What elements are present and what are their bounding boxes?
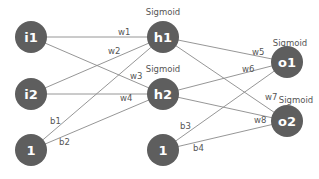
node-h1: h1 (147, 21, 179, 53)
node-o1: o1 (271, 46, 303, 78)
node-bias-input: 1 (15, 134, 47, 166)
neural-network-diagram: w1 w2 w3 w4 b1 b2 w5 w6 w7 w8 b3 b4 Sigm… (0, 0, 319, 179)
node-label-bias-input: 1 (26, 143, 35, 158)
label-b2: b2 (59, 137, 70, 147)
label-w3: w3 (130, 71, 142, 81)
edge-w6 (163, 62, 287, 94)
label-w8: w8 (254, 115, 266, 125)
edge-b3 (163, 62, 287, 150)
node-label-o2: o2 (278, 114, 296, 129)
node-i2: i2 (15, 78, 47, 110)
label-w1: w1 (118, 27, 130, 37)
node-h2: h2 (147, 78, 179, 110)
label-w5: w5 (252, 47, 264, 57)
node-label-h2: h2 (154, 87, 172, 102)
activation-label-o2: Sigmoid (279, 95, 313, 105)
node-label-bias-hidden: 1 (158, 143, 167, 158)
node-i1: i1 (15, 21, 47, 53)
node-label-h1: h1 (154, 30, 172, 45)
label-w2: w2 (108, 46, 120, 56)
node-label-i1: i1 (24, 30, 38, 45)
label-w4: w4 (120, 93, 132, 103)
activation-label-h2: Sigmoid (146, 64, 180, 74)
label-b4: b4 (193, 143, 204, 153)
edge-b1 (31, 37, 163, 150)
activation-label-h1: Sigmoid (146, 7, 180, 17)
node-label-o1: o1 (278, 55, 296, 70)
node-label-i2: i2 (24, 87, 38, 102)
label-b3: b3 (180, 121, 191, 131)
node-bias-hidden: 1 (147, 134, 179, 166)
label-b1: b1 (50, 116, 61, 126)
node-o2: o2 (271, 105, 303, 137)
label-w6: w6 (242, 64, 254, 74)
label-w7: w7 (265, 92, 277, 102)
